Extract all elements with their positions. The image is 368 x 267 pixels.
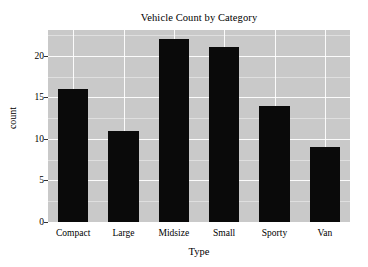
y-tick-label: 15 [35,92,45,102]
y-tick-mark [44,222,48,223]
gridline-minor [48,201,350,202]
chart-title: Vehicle Count by Category [48,12,350,24]
bar [108,131,138,222]
y-tick-mark [44,56,48,57]
gridline-minor [48,118,350,119]
y-axis-label: count [7,90,19,146]
plot-panel [48,30,350,222]
bar [209,47,239,222]
x-tick-label: Midsize [149,228,199,239]
y-tick-label: 10 [35,134,45,144]
bar-chart: Vehicle Count by Category count Type 051… [0,0,368,267]
bar [310,147,340,222]
gridline-major [48,56,350,57]
gridline-major [48,97,350,98]
bar [259,106,289,222]
y-tick-label: 20 [35,51,45,61]
x-tick-label: Sporty [249,228,299,239]
gridline-major [48,139,350,140]
x-axis-label: Type [48,246,350,258]
gridline-minor [48,77,350,78]
gridline-minor [48,160,350,161]
x-tick-label: Van [300,228,350,239]
x-tick-label: Compact [48,228,98,239]
bar [58,89,88,222]
x-tick-label: Small [199,228,249,239]
y-tick-mark [44,139,48,140]
gridline-minor [48,35,350,36]
y-tick-mark [44,180,48,181]
y-tick-mark [44,97,48,98]
gridline-major [48,180,350,181]
x-tick-label: Large [98,228,148,239]
bar [159,39,189,222]
